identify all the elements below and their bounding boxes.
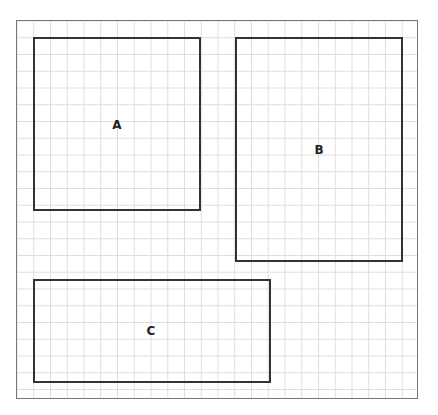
rectangle-a-label: A (112, 119, 121, 131)
rectangle-c-label: C (147, 325, 156, 337)
cropped-caption-fragment (16, 0, 266, 3)
rectangle-b-label: B (314, 144, 323, 156)
